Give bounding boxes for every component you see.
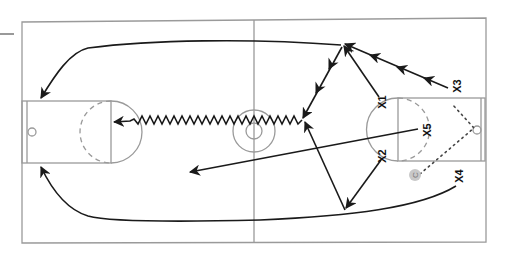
coach-label: C bbox=[411, 172, 420, 178]
movements bbox=[41, 41, 474, 221]
x3-cut-tick bbox=[370, 55, 376, 57]
pass-dotted-line bbox=[420, 104, 474, 174]
bottom-to-wing-arrow bbox=[305, 122, 345, 210]
left-basket bbox=[28, 128, 36, 136]
top-long-cut-arrow bbox=[41, 41, 341, 98]
x2-cut-arrow bbox=[346, 160, 381, 208]
bottom-long-cut-arrow bbox=[41, 167, 456, 221]
x1-cut-arrow bbox=[344, 46, 379, 97]
player-x2: X2 bbox=[376, 149, 388, 162]
player-x4: X4 bbox=[453, 168, 465, 182]
top-to-wing-arrow bbox=[303, 47, 342, 118]
coach-marker: C bbox=[409, 169, 421, 181]
left-ft-arc-dashed bbox=[80, 101, 111, 163]
player-x1: X1 bbox=[376, 95, 388, 108]
x3-cut-tick bbox=[424, 78, 430, 80]
x3-cut-tick bbox=[397, 67, 403, 69]
player-x3: X3 bbox=[451, 79, 463, 92]
dribble-zigzag-arrow bbox=[114, 116, 302, 124]
court-diagram: C X1 X2 X3 X4 X5 bbox=[0, 0, 506, 255]
court bbox=[22, 18, 486, 243]
x3-cut-arrow bbox=[345, 44, 448, 88]
left-key bbox=[22, 101, 111, 163]
left-ft-arc bbox=[111, 101, 142, 163]
player-x5: X5 bbox=[421, 123, 433, 136]
